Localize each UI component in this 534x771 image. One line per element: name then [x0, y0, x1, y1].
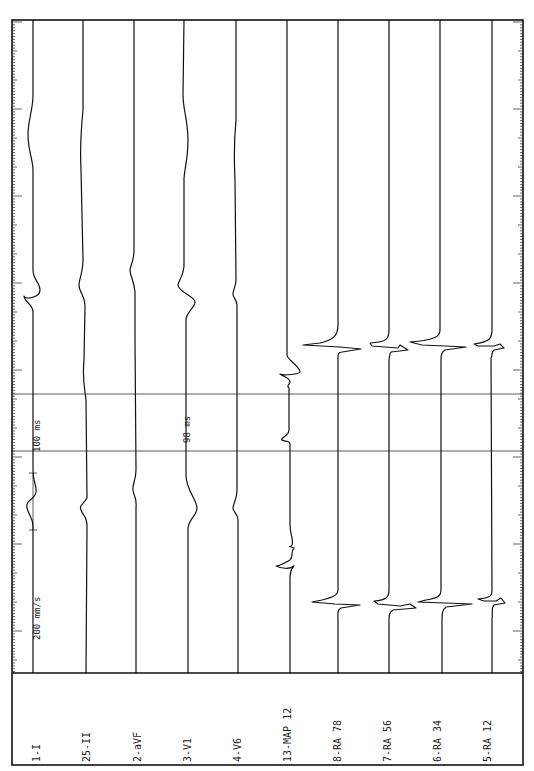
trace-group — [24, 20, 505, 673]
plot-frame — [12, 20, 523, 765]
right-time-ruler — [513, 22, 523, 672]
calibration-bracket — [29, 473, 37, 530]
channel-label: 8-RA 78 — [332, 720, 343, 762]
trace-4-V6 — [233, 20, 238, 673]
channel-label: 1-I — [31, 744, 42, 762]
trace-3-V1 — [178, 20, 197, 673]
trace-5-RA-12 — [474, 20, 505, 673]
channel-label: 6-RA 34 — [432, 720, 443, 762]
channel-labels: 1-I 25-II 2-aVF 3-V1 4-V6 13-MAP 12 8-RA… — [31, 708, 493, 762]
channel-label: 4-V6 — [232, 738, 243, 762]
trace-25-II — [79, 20, 87, 673]
ecg-sheet: 200 mm/s 100 ms 98 ms 1-I 25-II 2-aVF 3-… — [0, 0, 534, 771]
trace-2-aVF — [130, 20, 136, 673]
trace-1-I — [24, 20, 40, 673]
channel-label: 13-MAP 12 — [282, 708, 293, 762]
left-time-ruler — [12, 22, 22, 672]
paper-speed-label: 200 mm/s — [32, 597, 42, 640]
trace-6-RA-34 — [410, 20, 472, 673]
calibration-label: 100 ms — [32, 419, 42, 452]
channel-label: 7-RA 56 — [382, 720, 393, 762]
trace-13-MAP-12 — [276, 20, 300, 673]
trace-8-RA-78 — [303, 20, 361, 673]
trace-7-RA-56 — [370, 20, 416, 673]
caliper-interval-label: 98 ms — [182, 416, 192, 443]
channel-label: 5-RA 12 — [482, 720, 493, 762]
channel-label: 3-V1 — [182, 738, 193, 762]
channel-label: 25-II — [81, 732, 92, 762]
channel-label: 2-aVF — [132, 732, 143, 762]
